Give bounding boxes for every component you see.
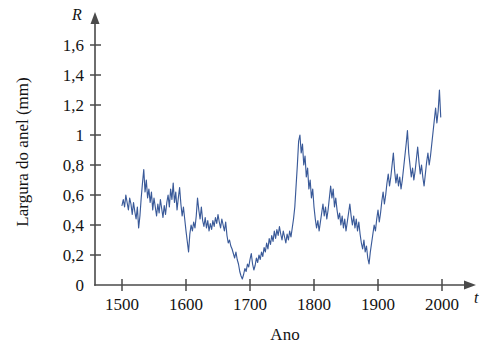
data-line-largura-do-anel — [122, 90, 441, 279]
chart-container: 00,20,40,60,811,21,41,6 1500160017001800… — [0, 0, 497, 352]
x-axis-title: Ano — [270, 325, 299, 344]
y-axis-tick-label: 1,6 — [63, 36, 84, 55]
y-axis-symbol-label: R — [71, 6, 82, 23]
y-axis-tick-label: 0,4 — [63, 216, 85, 235]
y-axis-tick-label: 0 — [76, 276, 85, 295]
y-axis-arrow-icon — [91, 12, 100, 24]
y-axis-tick-label: 0,6 — [63, 186, 84, 205]
y-axis-tick-label: 1,4 — [63, 66, 85, 85]
y-axis-title: Largura do anel (mm) — [13, 77, 32, 226]
x-axis-tick-label: 1900 — [361, 295, 395, 314]
y-axis-tick-labels: 00,20,40,60,811,21,41,6 — [63, 36, 85, 295]
y-axis-tick-label: 0,8 — [63, 156, 84, 175]
x-axis-tick-labels: 150016001700180019002000 — [105, 295, 459, 314]
x-axis-tick-label: 1500 — [105, 295, 139, 314]
tree-ring-line-chart: 00,20,40,60,811,21,41,6 1500160017001800… — [0, 0, 497, 352]
x-axis-tick-label: 2000 — [425, 295, 459, 314]
x-axis-tick-label: 1600 — [169, 295, 203, 314]
y-axis-tick-label: 1 — [76, 126, 85, 145]
y-axis-tick-label: 0,2 — [63, 246, 84, 265]
x-axis-symbol-label: t — [474, 289, 479, 306]
data-series-group — [122, 90, 441, 279]
x-axis-tick-label: 1800 — [297, 295, 331, 314]
x-axis-tick-label: 1700 — [233, 295, 267, 314]
y-axis-tick-label: 1,2 — [63, 96, 84, 115]
